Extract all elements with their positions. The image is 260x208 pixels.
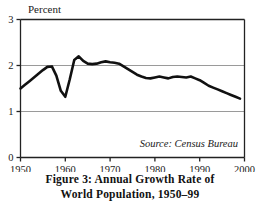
data-series-line bbox=[21, 56, 241, 98]
caption-line-2: World Population, 1950–99 bbox=[0, 187, 260, 202]
x-tick-label-2000: 2000 bbox=[234, 164, 255, 173]
x-axis-ticks: 195019601970198019902000 bbox=[10, 158, 255, 173]
x-tick-label-1980: 1980 bbox=[144, 164, 165, 173]
x-tick-label-1990: 1990 bbox=[189, 164, 210, 173]
y-tick-label-2: 2 bbox=[8, 60, 13, 71]
y-tick-label-1: 1 bbox=[8, 106, 13, 117]
y-axis-ticks: 0123 bbox=[8, 14, 20, 163]
plot-frame bbox=[21, 20, 245, 158]
y-tick-label-0: 0 bbox=[8, 152, 13, 163]
y-axis-unit-label: Percent bbox=[28, 3, 61, 15]
x-tick-label-1960: 1960 bbox=[55, 164, 76, 173]
x-tick-label-1950: 1950 bbox=[10, 164, 31, 173]
y-tick-label-3: 3 bbox=[8, 14, 13, 25]
figure-container: 0123 195019601970198019902000 Percent So… bbox=[0, 0, 260, 208]
caption-line-1: Figure 3: Annual Growth Rate of bbox=[0, 172, 260, 187]
source-note: Source: Census Bureau bbox=[140, 138, 238, 149]
chart-plot-area: 0123 195019601970198019902000 Percent So… bbox=[0, 0, 260, 172]
line-chart: 0123 195019601970198019902000 Percent So… bbox=[0, 0, 260, 172]
figure-caption: Figure 3: Annual Growth Rate of World Po… bbox=[0, 172, 260, 202]
x-tick-label-1970: 1970 bbox=[100, 164, 121, 173]
